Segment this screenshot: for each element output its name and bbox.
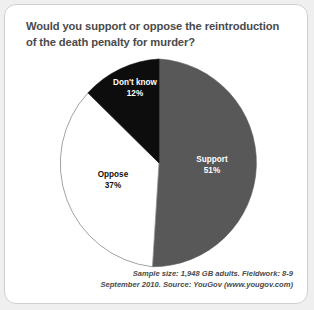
pie-label-support: Support 51%: [177, 155, 247, 176]
pie-label-support-value: 51%: [177, 166, 247, 177]
pie-label-oppose-name: Oppose: [98, 170, 128, 179]
source-caption: Sample size: 1,948 GB adults. Fieldwork:…: [43, 268, 293, 290]
pie-label-support-name: Support: [196, 155, 227, 164]
pie-label-dont-know-value: 12%: [97, 89, 173, 100]
source-caption-line-1: Sample size: 1,948 GB adults. Fieldwork:…: [43, 268, 293, 279]
pie-label-oppose: Oppose 37%: [79, 170, 147, 191]
source-caption-line-2: September 2010. Source: YouGov (www.youg…: [43, 279, 293, 290]
pie-chart: Don't know 12% Support 51% Oppose 37%: [5, 5, 308, 304]
pie-label-dont-know: Don't know 12%: [97, 78, 173, 99]
pie-label-oppose-value: 37%: [79, 181, 147, 192]
pie-label-dont-know-name: Don't know: [113, 78, 157, 87]
chart-card: Would you support or oppose the reintrod…: [4, 4, 308, 304]
